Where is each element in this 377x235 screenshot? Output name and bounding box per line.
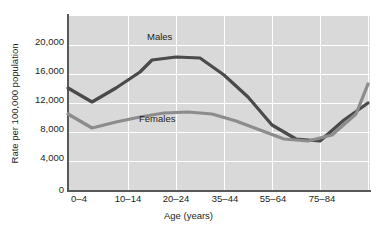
- series-line-females: [68, 84, 368, 141]
- x-tick-label: 10–14: [115, 193, 141, 204]
- x-tick-label: 55–64: [260, 193, 286, 204]
- series-line-males: [68, 57, 368, 141]
- line-chart-figure: 20,000 16,000 12,000 8,000 4,000 0 0–4 1…: [0, 0, 377, 235]
- y-axis-title: Rate per 100,000 population: [9, 29, 20, 179]
- series-label-females: Females: [139, 113, 175, 124]
- y-tick-label: 0: [20, 185, 64, 195]
- x-tick-label: 75–84: [309, 193, 335, 204]
- x-axis-title: Age (years): [0, 210, 377, 221]
- x-tick-label: 35–44: [212, 193, 238, 204]
- y-tick-label: 16,000: [20, 66, 64, 76]
- x-tick-label: 20–24: [163, 193, 189, 204]
- y-tick-label: 8,000: [20, 124, 64, 134]
- x-tick-label: 0–4: [71, 193, 87, 204]
- y-tick-label: 12,000: [20, 95, 64, 105]
- y-tick-labels: 20,000 16,000 12,000 8,000 4,000 0: [14, 0, 64, 235]
- series-label-males: Males: [147, 31, 172, 42]
- y-tick-label: 4,000: [20, 153, 64, 163]
- y-tick-label: 20,000: [20, 37, 64, 47]
